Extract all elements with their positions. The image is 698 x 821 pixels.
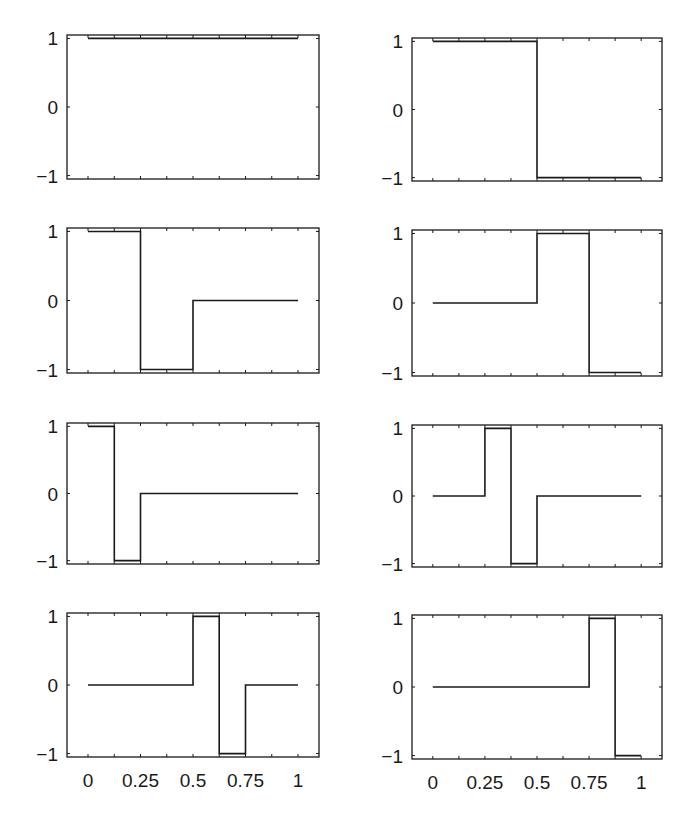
figure-canvas: −101−101−101−101−101−101−10100.250.50.75… xyxy=(0,0,698,821)
subplot-row1-left: −101 xyxy=(36,28,319,186)
haar-function-line xyxy=(433,618,641,755)
subplot-row2-left: −101 xyxy=(36,221,319,380)
subplot-row1-right: −101 xyxy=(381,31,662,188)
x-tick-label: 0.25 xyxy=(122,770,159,791)
y-tick-label: 1 xyxy=(47,606,58,627)
y-tick-label: 0 xyxy=(47,484,58,505)
x-tick-label: 0.75 xyxy=(571,772,608,793)
y-tick-label: 0 xyxy=(392,293,403,314)
subplot-row2-right: −101 xyxy=(381,223,662,383)
axes-frame xyxy=(67,35,319,179)
x-tick-label: 0.5 xyxy=(524,772,550,793)
y-tick-label: −1 xyxy=(36,166,58,187)
y-tick-label: −1 xyxy=(36,744,58,765)
x-tick-label: 0 xyxy=(83,770,94,791)
y-tick-label: 1 xyxy=(392,418,403,439)
subplot-row4-right: −10100.250.50.751 xyxy=(381,608,662,793)
haar-function-line xyxy=(433,428,641,563)
y-tick-label: −1 xyxy=(381,363,403,384)
y-tick-label: 0 xyxy=(392,486,403,507)
haar-function-line xyxy=(433,41,641,177)
haar-function-line xyxy=(433,234,641,373)
y-tick-label: 1 xyxy=(392,608,403,629)
y-tick-label: 0 xyxy=(47,97,58,118)
y-tick-label: 0 xyxy=(392,677,403,698)
y-tick-label: 1 xyxy=(47,416,58,437)
haar-function-line xyxy=(88,232,298,370)
y-tick-label: −1 xyxy=(381,168,403,189)
y-tick-label: −1 xyxy=(381,554,403,575)
y-tick-label: −1 xyxy=(36,551,58,572)
subplot-row3-right: −101 xyxy=(381,418,662,574)
x-tick-label: 1 xyxy=(636,772,647,793)
y-tick-label: 0 xyxy=(392,100,403,121)
x-tick-label: 0.5 xyxy=(180,770,206,791)
y-tick-label: 1 xyxy=(47,28,58,49)
y-tick-label: −1 xyxy=(36,360,58,381)
y-tick-label: 1 xyxy=(392,223,403,244)
subplot-row3-left: −101 xyxy=(36,416,319,571)
y-tick-label: 1 xyxy=(47,221,58,242)
y-tick-label: 0 xyxy=(47,291,58,312)
x-tick-label: 0.75 xyxy=(227,770,264,791)
haar-basis-figure: −101−101−101−101−101−101−10100.250.50.75… xyxy=(0,0,698,821)
x-tick-label: 0.25 xyxy=(466,772,503,793)
x-tick-label: 1 xyxy=(293,770,304,791)
y-tick-label: 1 xyxy=(392,31,403,52)
haar-function-line xyxy=(88,426,298,560)
y-tick-label: 0 xyxy=(47,675,58,696)
y-tick-label: −1 xyxy=(381,746,403,767)
subplot-row4-left: −10100.250.50.751 xyxy=(36,606,319,791)
x-tick-label: 0 xyxy=(428,772,439,793)
haar-function-line xyxy=(88,616,298,753)
